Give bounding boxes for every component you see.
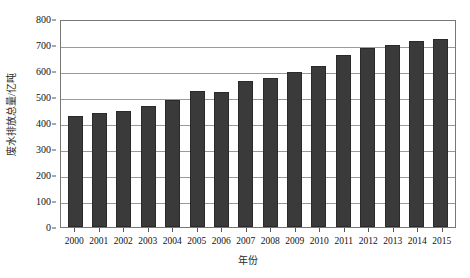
y-axis-tick-mark <box>52 150 56 151</box>
bar-cell <box>136 21 160 227</box>
x-axis-tick-mark <box>270 228 271 232</box>
x-axis-tick-label: 2005 <box>185 234 210 250</box>
plot-area <box>60 20 456 228</box>
x-axis-tick-mark <box>368 228 369 232</box>
y-axis-tick-label: 700 <box>36 41 51 51</box>
y-axis-tick-mark <box>52 20 56 21</box>
bar-cell <box>185 21 209 227</box>
x-axis-tick-label: 2003 <box>136 234 161 250</box>
x-axis-tick-mark <box>74 228 75 232</box>
bar[interactable] <box>263 78 278 228</box>
bar[interactable] <box>214 92 229 227</box>
x-axis-tick-label: 2007 <box>234 234 259 250</box>
y-axis-tick-mark <box>52 202 56 203</box>
y-axis-tick-label: 800 <box>36 15 51 25</box>
y-axis-tick-label: 500 <box>36 93 51 103</box>
bar[interactable] <box>409 41 424 227</box>
bar[interactable] <box>190 91 205 228</box>
x-axis-tick-label: 2010 <box>307 234 332 250</box>
x-axis-tick-label: 2006 <box>209 234 234 250</box>
bar-cell <box>331 21 355 227</box>
y-axis-title: 废水排放总量/亿吨 <box>2 0 18 228</box>
y-axis-tick-label: 200 <box>36 171 51 181</box>
bar-cell <box>307 21 331 227</box>
bar-cell <box>282 21 306 227</box>
y-axis-tick-mark <box>52 72 56 73</box>
y-axis-tick-label: 600 <box>36 67 51 77</box>
x-axis-tick-mark <box>417 228 418 232</box>
x-axis-tick-label: 2000 <box>62 234 87 250</box>
x-axis-tick-mark <box>442 228 443 232</box>
x-axis-tick-label: 2015 <box>430 234 455 250</box>
x-axis-tick-label: 2008 <box>258 234 283 250</box>
y-axis-tick-mark <box>52 98 56 99</box>
bar-cell <box>87 21 111 227</box>
bar-cell <box>380 21 404 227</box>
y-axis-tick-label: 400 <box>36 119 51 129</box>
x-axis-tick-label: 2013 <box>381 234 406 250</box>
x-axis-tick-mark <box>319 228 320 232</box>
x-axis-tick-label: 2004 <box>160 234 185 250</box>
x-axis-tick-mark <box>393 228 394 232</box>
bar-cell <box>112 21 136 227</box>
y-axis-tick-label: 100 <box>36 197 51 207</box>
bar[interactable] <box>385 45 400 227</box>
x-axis-tick-mark <box>123 228 124 232</box>
bar[interactable] <box>165 100 180 227</box>
bar[interactable] <box>141 106 156 227</box>
bar-cell <box>356 21 380 227</box>
x-axis-tick-mark <box>246 228 247 232</box>
bar[interactable] <box>68 116 83 227</box>
y-axis-tick-mark <box>52 124 56 125</box>
y-axis-tick-mark <box>52 176 56 177</box>
bar[interactable] <box>360 48 375 227</box>
bar[interactable] <box>92 113 107 227</box>
x-axis-tick-mark <box>148 228 149 232</box>
bar[interactable] <box>311 66 326 227</box>
x-axis-tick-mark <box>197 228 198 232</box>
y-axis-tick-label: 300 <box>36 145 51 155</box>
bar[interactable] <box>433 39 448 228</box>
x-axis-tick-label: 2012 <box>356 234 381 250</box>
bar-cell <box>209 21 233 227</box>
x-axis-tick-mark <box>221 228 222 232</box>
bar[interactable] <box>116 111 131 227</box>
x-axis-tick-labels: 2000200120022003200420052006200720082009… <box>60 234 456 250</box>
bar-cell <box>429 21 453 227</box>
x-axis-tick-label: 2014 <box>405 234 430 250</box>
x-axis-tick-label: 2009 <box>283 234 308 250</box>
bar-chart: 废水排放总量/亿吨 0100200300400500600700800 2000… <box>0 0 470 278</box>
bar-cell <box>234 21 258 227</box>
bar[interactable] <box>287 72 302 227</box>
bar[interactable] <box>336 55 351 227</box>
bar-cell <box>404 21 428 227</box>
bar-cell <box>258 21 282 227</box>
x-axis-title: 年份 <box>0 252 470 267</box>
x-axis-tick-mark <box>344 228 345 232</box>
x-axis-tick-label: 2002 <box>111 234 136 250</box>
y-axis-tick-mark <box>52 228 56 229</box>
bar[interactable] <box>238 81 253 227</box>
y-axis-tick-mark <box>52 46 56 47</box>
x-axis-tick-mark <box>295 228 296 232</box>
x-axis-tick-mark <box>99 228 100 232</box>
y-axis-title-text: 废水排放总量/亿吨 <box>3 73 18 156</box>
x-axis-title-text: 年份 <box>238 255 258 266</box>
y-axis-tick-labels: 0100200300400500600700800 <box>20 0 56 240</box>
x-axis-tick-label: 2001 <box>87 234 112 250</box>
y-axis-tick-label: 0 <box>46 223 51 233</box>
bar-series <box>61 21 455 227</box>
bar-cell <box>161 21 185 227</box>
bar-cell <box>63 21 87 227</box>
x-axis-tick-label: 2011 <box>332 234 357 250</box>
x-axis-tick-mark <box>172 228 173 232</box>
